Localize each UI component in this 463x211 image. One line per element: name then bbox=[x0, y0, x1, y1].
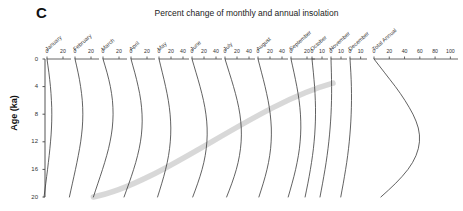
curve-august bbox=[258, 59, 271, 197]
x-tick-label: 20 bbox=[267, 48, 273, 54]
x-tick-label: 40 bbox=[246, 48, 252, 54]
x-tick-label: 10 bbox=[358, 48, 364, 54]
x-tick-label: 20 bbox=[144, 48, 150, 54]
y-tick-label: 20 bbox=[22, 194, 38, 200]
curve-february bbox=[69, 59, 82, 197]
x-tick-label: 20 bbox=[386, 48, 392, 54]
x-tick-label: 20 bbox=[168, 48, 174, 54]
y-tick-label: 8 bbox=[22, 111, 38, 117]
curve-april bbox=[124, 59, 142, 197]
curve-december bbox=[341, 59, 352, 197]
figure-panel-c: C Percent change of monthly and annual i… bbox=[0, 0, 463, 211]
curve-march bbox=[93, 59, 113, 197]
x-tick-label: 20 bbox=[116, 48, 122, 54]
y-tick-label: 12 bbox=[22, 138, 38, 144]
x-tick-label: 20 bbox=[60, 48, 66, 54]
x-tick-label: 10 bbox=[338, 48, 344, 54]
curve-september bbox=[288, 59, 301, 197]
x-tick-label: 40 bbox=[402, 48, 408, 54]
x-tick-label: 40 bbox=[279, 48, 285, 54]
x-tick-label: 10 bbox=[319, 48, 325, 54]
curve-june bbox=[192, 59, 207, 197]
curve-may bbox=[158, 59, 171, 197]
gray-diagonal-band bbox=[93, 83, 333, 197]
x-tick-label: 20 bbox=[88, 48, 94, 54]
x-tick-label: 100 bbox=[446, 48, 455, 54]
curve-october bbox=[305, 59, 315, 197]
x-tick-label: 20 bbox=[201, 48, 207, 54]
x-tick-label: 60 bbox=[417, 48, 423, 54]
x-tick-label: 80 bbox=[432, 48, 438, 54]
curve-total-annual bbox=[374, 59, 419, 197]
x-tick-label: 40 bbox=[213, 48, 219, 54]
curve-november bbox=[320, 59, 332, 197]
x-tick-label: 20 bbox=[304, 48, 310, 54]
x-tick-label: 40 bbox=[180, 48, 186, 54]
y-tick-label: 16 bbox=[22, 166, 38, 172]
y-tick-label: 0 bbox=[22, 56, 38, 62]
y-tick-label: 4 bbox=[22, 83, 38, 89]
x-tick-label: 20 bbox=[234, 48, 240, 54]
